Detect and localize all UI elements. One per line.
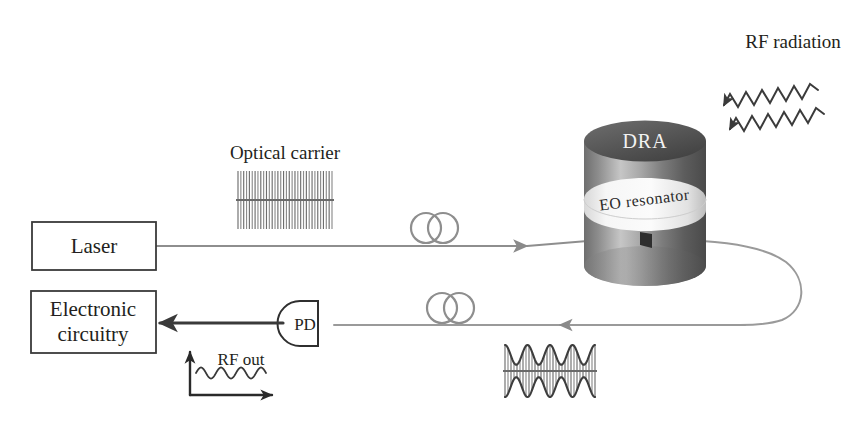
rf-out-label: RF out: [218, 350, 265, 369]
rf-out-inset: RF out: [190, 350, 272, 395]
fiber-coil-loop-c: [427, 293, 457, 323]
fiber-coil-loop-b: [428, 213, 458, 243]
optical-carrier-label: Optical carrier: [230, 142, 341, 163]
pd-label: PD: [294, 315, 316, 334]
laser-label: Laser: [71, 234, 118, 258]
rf-radiation-wave-arrow-1: [724, 84, 818, 107]
dra-label: DRA: [622, 130, 667, 152]
rf-radiation-group: RF radiation: [724, 31, 841, 131]
laser-block[interactable]: Laser: [32, 222, 156, 270]
dielectric-resonator-antenna: DRA EO resonator: [584, 121, 706, 287]
fiber-coil-loop-d: [444, 293, 474, 323]
diagram-canvas: DRA EO resonator RF radiation Optical ca…: [0, 0, 858, 429]
rf-radiation-wave-arrow-2: [730, 108, 824, 131]
eo-resonator-band: EO resonator: [584, 178, 706, 231]
electronic-circuitry-label-line1: Electronic: [50, 297, 136, 321]
rf-out-waveform: [196, 368, 266, 379]
electronic-circuitry-block[interactable]: Electronic circuitry: [31, 291, 156, 353]
fiber-coil-loop-a: [411, 213, 441, 243]
modulated-signal-waveform: [503, 345, 597, 397]
electronic-circuitry-label-line2: circuitry: [57, 322, 129, 346]
cylinder-bottom-shade: [584, 246, 706, 286]
laser-to-resonator-fiber: [156, 236, 648, 246]
rf-radiation-label: RF radiation: [745, 31, 841, 52]
optical-carrier-waveform: Optical carrier: [230, 142, 341, 229]
lower-fiber-coil: [427, 293, 474, 323]
resonator-to-pd-fiber: [334, 240, 801, 325]
upper-fiber-coil: [411, 213, 458, 243]
